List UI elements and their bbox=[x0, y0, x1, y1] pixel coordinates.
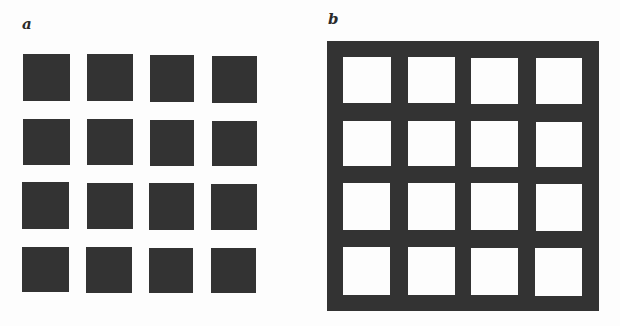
white-square bbox=[471, 121, 518, 167]
white-square bbox=[471, 248, 518, 295]
white-square bbox=[536, 122, 582, 167]
white-square bbox=[535, 248, 582, 296]
dark-square bbox=[150, 120, 194, 166]
dark-square bbox=[150, 55, 194, 102]
dark-square bbox=[212, 121, 257, 166]
white-square bbox=[343, 247, 390, 295]
white-square bbox=[408, 57, 455, 103]
dark-square bbox=[87, 119, 133, 165]
white-square bbox=[343, 121, 391, 166]
white-square bbox=[471, 58, 518, 104]
panel-a-grid bbox=[0, 0, 310, 326]
dark-square bbox=[211, 184, 257, 230]
white-square bbox=[536, 184, 582, 231]
white-square bbox=[408, 247, 455, 295]
white-square bbox=[343, 183, 390, 230]
dark-square bbox=[86, 247, 132, 293]
dark-square bbox=[22, 182, 69, 229]
dark-square bbox=[212, 56, 257, 103]
white-square bbox=[471, 183, 518, 230]
white-square bbox=[343, 57, 391, 103]
dark-square bbox=[149, 248, 193, 293]
white-square bbox=[408, 121, 455, 166]
white-square bbox=[408, 183, 455, 230]
dark-square bbox=[23, 54, 70, 101]
dark-square bbox=[87, 54, 133, 101]
panel-b-label: b bbox=[328, 12, 339, 27]
dark-square bbox=[211, 248, 256, 293]
dark-square bbox=[149, 183, 194, 230]
dark-square bbox=[87, 183, 133, 229]
dark-square bbox=[22, 247, 69, 292]
white-square bbox=[536, 58, 582, 104]
dark-square bbox=[23, 119, 70, 165]
